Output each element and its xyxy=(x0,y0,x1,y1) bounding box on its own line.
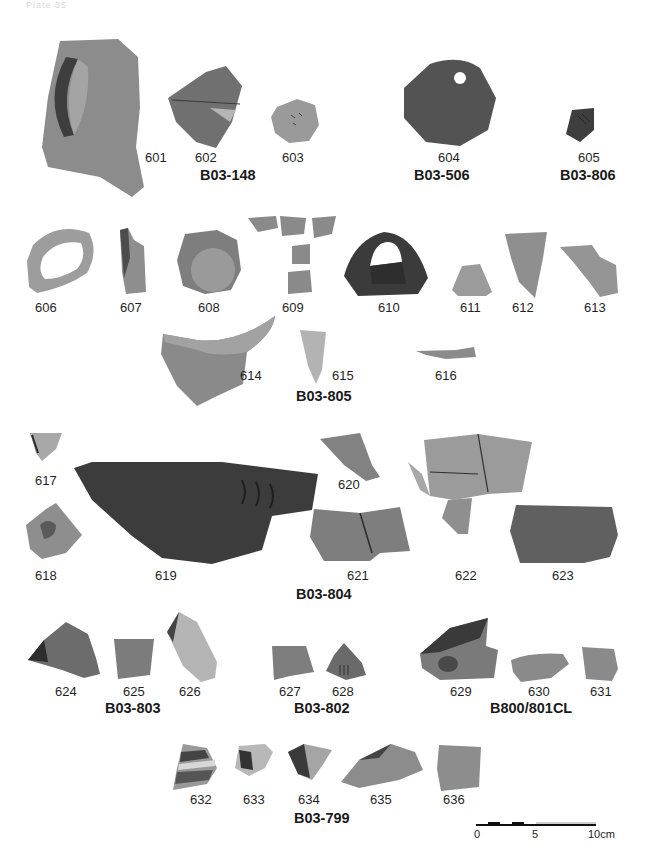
sherd-610-image xyxy=(344,228,430,296)
scale-bar-light-segment xyxy=(536,822,596,824)
label-604: 604 xyxy=(438,150,460,165)
sherd-616-image xyxy=(416,347,476,361)
sherd-635-image xyxy=(339,744,423,788)
sherd-605-image xyxy=(566,108,596,142)
group-label-B03-805: B03-805 xyxy=(296,388,352,404)
scale-label-0: 0 xyxy=(474,828,480,840)
sherd-602-image xyxy=(166,64,244,148)
label-622: 622 xyxy=(455,568,477,583)
sherd-619-image xyxy=(72,460,322,564)
group-label-B03-804: B03-804 xyxy=(296,586,352,602)
group-label-B03-506: B03-506 xyxy=(414,167,470,183)
label-634: 634 xyxy=(298,792,320,807)
sherd-628-image xyxy=(326,643,366,680)
label-602: 602 xyxy=(195,150,217,165)
sherd-629-image xyxy=(420,618,500,680)
label-601: 601 xyxy=(145,150,167,165)
label-603: 603 xyxy=(282,150,304,165)
scale-bar-segment xyxy=(500,822,512,824)
label-620: 620 xyxy=(338,477,360,492)
scale-label-5: 5 xyxy=(532,828,538,840)
label-608: 608 xyxy=(198,300,220,315)
sherd-630-image xyxy=(511,652,569,682)
scale-bar: 0 5 10cm xyxy=(476,818,616,838)
label-616: 616 xyxy=(435,368,457,383)
scale-bar-segment xyxy=(524,822,536,824)
label-623: 623 xyxy=(552,568,574,583)
label-617: 617 xyxy=(35,473,57,488)
scale-label-10: 10cm xyxy=(588,828,615,840)
sherd-631-image xyxy=(582,647,618,681)
sherd-620-image xyxy=(320,433,382,481)
label-633: 633 xyxy=(243,792,265,807)
label-629: 629 xyxy=(450,684,472,699)
group-label-B03-148: B03-148 xyxy=(200,167,256,183)
label-605: 605 xyxy=(578,150,600,165)
sherd-606-image xyxy=(27,227,97,295)
label-607: 607 xyxy=(120,300,142,315)
label-625: 625 xyxy=(123,684,145,699)
label-635: 635 xyxy=(370,792,392,807)
sherd-612-image xyxy=(505,232,549,298)
label-614: 614 xyxy=(240,368,262,383)
label-618: 618 xyxy=(35,568,57,583)
sherd-614-image xyxy=(157,314,277,406)
label-630: 630 xyxy=(528,684,550,699)
sherd-634-image xyxy=(288,744,332,780)
label-627: 627 xyxy=(279,684,301,699)
sherd-613-image xyxy=(560,245,618,297)
label-612: 612 xyxy=(512,300,534,315)
label-628: 628 xyxy=(332,684,354,699)
sherd-626-image xyxy=(167,612,221,682)
sherd-603-image xyxy=(271,97,319,145)
sherd-623-image xyxy=(510,505,618,563)
label-611: 611 xyxy=(460,300,481,315)
sherd-601-image xyxy=(40,37,146,197)
label-609: 609 xyxy=(282,300,304,315)
label-613: 613 xyxy=(584,300,606,315)
sherd-625-image xyxy=(114,639,154,679)
sherd-611-image xyxy=(452,264,492,296)
label-619: 619 xyxy=(155,568,177,583)
label-606: 606 xyxy=(35,300,57,315)
label-624: 624 xyxy=(55,684,77,699)
label-610: 610 xyxy=(378,300,400,315)
sherd-624-image xyxy=(28,622,102,678)
group-label-B03-806: B03-806 xyxy=(560,167,616,183)
sherd-636-image xyxy=(437,745,481,791)
group-label-B03-802: B03-802 xyxy=(294,700,350,716)
sherd-608-image xyxy=(177,230,241,294)
label-626: 626 xyxy=(179,684,201,699)
sherd-615-image xyxy=(300,330,330,384)
sherd-604-image xyxy=(400,58,500,148)
plate-header: Plate 35 xyxy=(26,0,67,10)
group-label-B03-803: B03-803 xyxy=(105,700,161,716)
label-615: 615 xyxy=(332,368,354,383)
sherd-627-image xyxy=(272,646,314,680)
sherd-633-image xyxy=(235,744,273,776)
group-label-B03-799: B03-799 xyxy=(294,810,350,826)
sherd-609-image xyxy=(248,214,338,294)
label-632: 632 xyxy=(190,792,212,807)
label-631: 631 xyxy=(590,684,612,699)
sherd-621-image xyxy=(310,507,410,561)
sherd-607-image xyxy=(118,228,148,294)
scale-bar-segment xyxy=(476,822,488,824)
sherd-617-image xyxy=(30,433,64,461)
group-label-B800/801CL: B800/801CL xyxy=(490,700,572,716)
sherd-632-image xyxy=(173,744,219,790)
label-636: 636 xyxy=(443,792,465,807)
label-621: 621 xyxy=(347,568,369,583)
pottery-plate: Plate 35 601 602 B03-148 603 604 B03-506… xyxy=(0,0,645,861)
